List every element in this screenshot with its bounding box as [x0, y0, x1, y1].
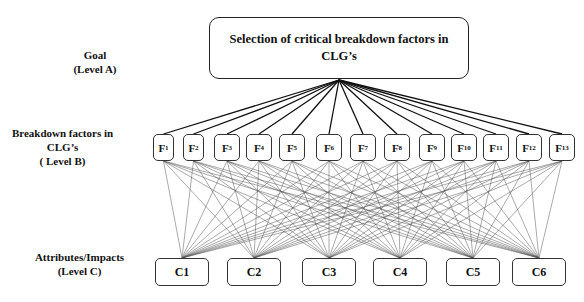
factor-node-f11: F11: [483, 134, 509, 161]
factor-node-f5: F5: [279, 134, 305, 161]
level-b-title-2: CLG’s: [0, 140, 125, 154]
level-a-subtitle: (Level A): [30, 62, 160, 76]
factor-node-f13: F13: [549, 134, 575, 161]
level-a-title: Goal: [30, 48, 160, 62]
factor-node-f10: F10: [451, 134, 477, 161]
goal-text-line1: Selection of critical breakdown factors …: [230, 31, 449, 48]
goal-node: Selection of critical breakdown factors …: [209, 17, 469, 79]
goal-text-line2: CLG’s: [321, 48, 357, 65]
level-c-title: Attributes/Impacts: [22, 250, 137, 264]
criterion-node-c4: C4: [373, 258, 427, 286]
criterion-node-c2: C2: [227, 258, 281, 286]
factor-node-f9: F9: [419, 134, 445, 161]
factor-node-f7: F7: [350, 134, 376, 161]
factor-node-f4: F4: [246, 134, 272, 161]
criterion-node-c6: C6: [512, 258, 566, 286]
level-c-subtitle: (Level C): [22, 264, 137, 278]
factor-node-f12: F12: [516, 134, 542, 161]
level-a-label: Goal (Level A): [30, 48, 160, 76]
factor-node-f1: F1: [153, 134, 174, 161]
level-c-label: Attributes/Impacts (Level C): [22, 250, 137, 278]
factor-node-f8: F8: [384, 134, 410, 161]
level-b-title: Breakdown factors in: [0, 126, 125, 140]
factor-node-f3: F3: [214, 134, 240, 161]
criterion-node-c3: C3: [302, 258, 356, 286]
level-b-label: Breakdown factors in CLG’s ( Level B): [0, 126, 125, 168]
criterion-node-c1: C1: [155, 258, 209, 286]
criterion-node-c5: C5: [446, 258, 500, 286]
factor-node-f2: F2: [183, 134, 204, 161]
factor-node-f6: F6: [316, 134, 342, 161]
level-b-subtitle: ( Level B): [0, 154, 125, 168]
